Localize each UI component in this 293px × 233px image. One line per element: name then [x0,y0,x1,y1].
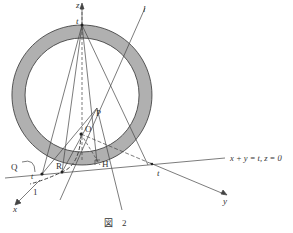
figure-caption: 図 2 [104,218,127,228]
label-P: P [96,108,101,118]
label-Q: Q [11,162,18,172]
label-y-axis: y [222,196,227,206]
label-l-line: l [143,4,146,14]
label-x-axis: x [12,204,17,214]
label-t-bottom: t [157,168,160,178]
label-t-top: t [76,16,79,26]
label-one: 1 [33,187,38,197]
label-line-equation: x + y = t, z = 0 [229,153,282,163]
geometry-figure: z t l P O H R Q t 1 x t y x + y = t, z =… [0,0,293,233]
label-H: H [102,159,109,169]
label-z-axis: z [75,0,80,10]
label-t-left: t [31,172,34,181]
label-O: O [85,124,92,134]
label-R: R [56,161,62,171]
